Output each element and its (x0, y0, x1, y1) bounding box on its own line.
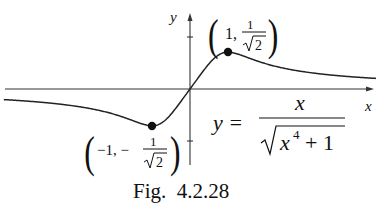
min-point-marker (148, 122, 156, 130)
max-close-paren: ) (268, 11, 279, 60)
figure: y x ( 1, 1 2 ) ( −1, − 1 2 ) y = x x 4 +… (0, 0, 376, 207)
min-open-paren: ( (84, 128, 95, 177)
max-frac-den: 2 (255, 38, 262, 53)
equation-den-base: x (279, 130, 290, 155)
figure-caption: Fig. 4.2.28 (133, 179, 229, 203)
x-axis-arrow-icon (366, 87, 374, 92)
y-axis-arrow-icon (188, 13, 193, 21)
equation-numerator: x (294, 90, 305, 115)
min-x-value: −1, − (97, 142, 129, 158)
equation-den-rest: + 1 (305, 130, 334, 155)
x-axis-label: x (364, 98, 372, 114)
equation-den-exp: 4 (293, 127, 300, 142)
max-x-value: 1, (225, 25, 237, 42)
min-point-label: ( −1, − 1 2 ) (84, 128, 180, 177)
max-point-marker (224, 48, 232, 56)
equation-label: y = x x 4 + 1 (211, 90, 345, 155)
max-frac-num: 1 (247, 17, 254, 32)
y-axis-label: y (168, 9, 177, 25)
max-point-label: ( 1, 1 2 ) (208, 11, 278, 60)
min-frac-den: 2 (156, 155, 163, 170)
min-close-paren: ) (170, 128, 181, 177)
equation-lhs: y = (211, 110, 243, 135)
max-open-paren: ( (208, 11, 219, 60)
min-frac-num: 1 (150, 134, 157, 149)
